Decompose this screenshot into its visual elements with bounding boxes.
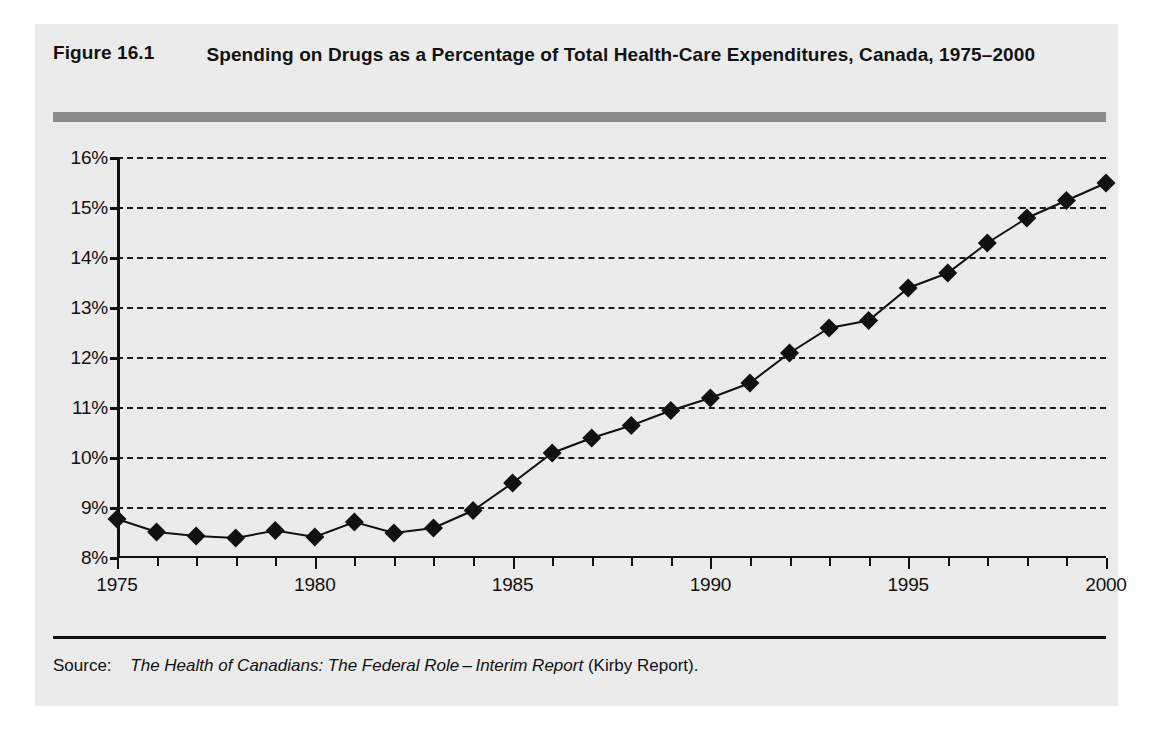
- y-axis-tick-label: 13%: [71, 297, 117, 319]
- x-tick-mark: [750, 558, 752, 566]
- x-tick-mark: [117, 558, 119, 569]
- data-point-marker: [187, 527, 206, 546]
- plot-area: 16%15%14%13%12%11%10%9%8%197519801985199…: [117, 158, 1106, 558]
- gridline: [117, 357, 1106, 359]
- x-tick-mark: [987, 558, 989, 566]
- x-axis-tick-label: 1990: [690, 574, 731, 596]
- x-tick-mark: [869, 558, 871, 566]
- data-point-marker: [305, 528, 324, 547]
- y-axis-tick-label: 11%: [72, 397, 117, 419]
- y-axis-tick-label: 14%: [71, 247, 117, 269]
- source-note: Source: The Health of Canadians: The Fed…: [53, 656, 698, 676]
- figure-number-label: Figure 16.1: [53, 42, 154, 64]
- data-point-marker: [226, 529, 245, 548]
- x-tick-mark: [710, 558, 712, 569]
- x-tick-mark: [236, 558, 238, 566]
- x-tick-mark: [354, 558, 356, 566]
- source-title: The Health of Canadians: The Federal Rol…: [130, 656, 583, 675]
- x-tick-mark: [908, 558, 910, 569]
- data-point-marker: [622, 416, 641, 435]
- x-tick-mark: [1027, 558, 1029, 566]
- x-tick-mark: [1066, 558, 1068, 566]
- x-tick-mark: [948, 558, 950, 566]
- data-point-marker: [424, 519, 443, 538]
- data-point-marker: [582, 429, 601, 448]
- x-tick-mark: [790, 558, 792, 566]
- x-tick-mark: [671, 558, 673, 566]
- x-axis-tick-label: 1975: [96, 574, 137, 596]
- y-axis-tick-label: 15%: [71, 197, 117, 219]
- x-tick-mark: [473, 558, 475, 566]
- gridline: [117, 307, 1106, 309]
- x-axis-tick-label: 1995: [887, 574, 928, 596]
- gridline: [117, 407, 1106, 409]
- x-tick-mark: [631, 558, 633, 566]
- x-axis-tick-label: 2000: [1085, 574, 1126, 596]
- y-axis-tick-label: 16%: [71, 147, 117, 169]
- data-point-marker: [661, 401, 680, 420]
- data-point-marker: [345, 513, 364, 532]
- chart-container: 16%15%14%13%12%11%10%9%8%197519801985199…: [53, 134, 1106, 614]
- x-tick-mark: [275, 558, 277, 566]
- data-point-marker: [384, 524, 403, 543]
- x-tick-mark: [433, 558, 435, 566]
- x-axis-tick-label: 1985: [492, 574, 533, 596]
- gridline: [117, 157, 1106, 159]
- data-point-marker: [740, 374, 759, 393]
- figure-divider-bar: [53, 112, 1106, 122]
- gridline: [117, 257, 1106, 259]
- figure-panel: Figure 16.1 Spending on Drugs as a Perce…: [35, 24, 1118, 706]
- gridline: [117, 457, 1106, 459]
- source-divider: [53, 636, 1106, 639]
- y-axis-tick-label: 8%: [81, 547, 117, 569]
- x-tick-mark: [157, 558, 159, 566]
- source-label: Source:: [53, 656, 112, 675]
- y-axis-tick-label: 12%: [71, 347, 117, 369]
- data-point-marker: [147, 523, 166, 542]
- data-point-marker: [780, 344, 799, 363]
- data-point-marker: [503, 474, 522, 493]
- data-point-marker: [464, 501, 483, 520]
- y-axis-tick-label: 10%: [71, 447, 117, 469]
- data-point-marker: [1017, 209, 1036, 228]
- data-point-marker: [978, 234, 997, 253]
- data-point-marker: [701, 389, 720, 408]
- x-tick-mark: [592, 558, 594, 566]
- x-tick-mark: [552, 558, 554, 566]
- data-point-marker: [938, 264, 957, 283]
- figure-title-row: Figure 16.1 Spending on Drugs as a Perce…: [53, 42, 1106, 68]
- data-point-marker: [1097, 174, 1116, 193]
- data-point-marker: [820, 319, 839, 338]
- data-point-marker: [543, 444, 562, 463]
- x-tick-mark: [315, 558, 317, 569]
- source-suffix: (Kirby Report).: [588, 656, 699, 675]
- x-axis-tick-label: 1980: [294, 574, 335, 596]
- x-tick-mark: [1106, 558, 1108, 569]
- data-point-marker: [266, 521, 285, 540]
- y-axis-tick-label: 9%: [81, 497, 117, 519]
- x-tick-mark: [394, 558, 396, 566]
- x-tick-mark: [513, 558, 515, 569]
- figure-title: Spending on Drugs as a Percentage of Tot…: [206, 42, 1035, 68]
- x-tick-mark: [196, 558, 198, 566]
- gridline: [117, 207, 1106, 209]
- gridline: [117, 507, 1106, 509]
- x-tick-mark: [829, 558, 831, 566]
